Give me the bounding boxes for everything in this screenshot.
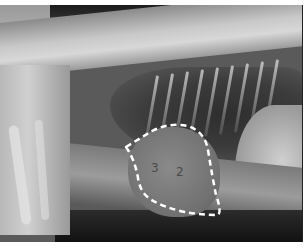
heart-dashed-outline — [126, 125, 220, 215]
chamber-label-3: 3 — [151, 161, 159, 175]
chamber-label-2: 2 — [176, 165, 184, 179]
heart-outline-overlay: 3 2 — [0, 0, 308, 248]
